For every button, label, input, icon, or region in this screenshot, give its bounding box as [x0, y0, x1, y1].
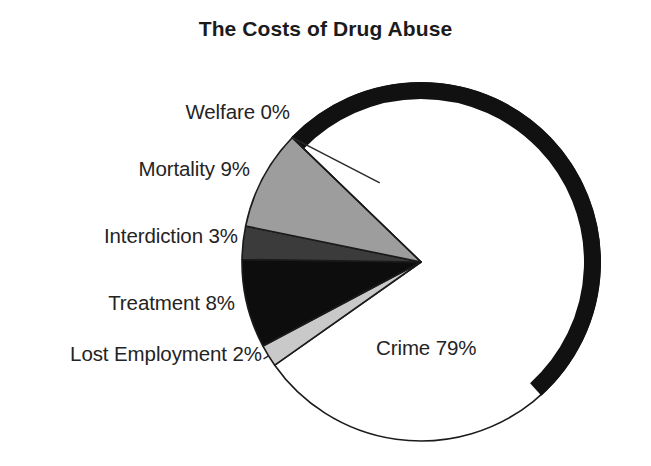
pie-label-treatment: Treatment 8%	[108, 291, 235, 315]
pie-label-lost-employment: Lost Employment 2%	[70, 342, 262, 366]
pie-label-mortality: Mortality 9%	[138, 157, 250, 181]
leader-line-lost-employment	[264, 356, 269, 359]
pie-label-interdiction: Interdiction 3%	[104, 224, 238, 248]
pie-chart: The Costs of Drug Abuse Welfare 0% Morta…	[0, 0, 651, 466]
pie-label-welfare: Welfare 0%	[185, 100, 290, 124]
pie-label-crime: Crime 79%	[376, 336, 477, 360]
pie-graphic	[0, 0, 651, 466]
